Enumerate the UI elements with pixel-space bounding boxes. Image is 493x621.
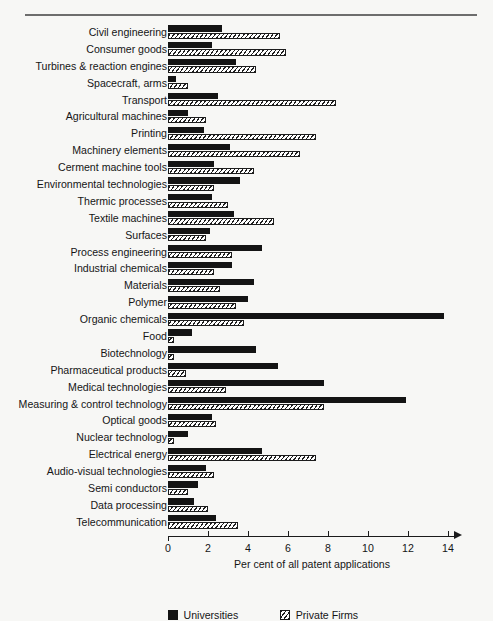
bar-private-firms <box>168 438 174 444</box>
category-label: Nuclear technology <box>0 429 167 446</box>
bar-private-firms <box>168 202 228 208</box>
chart-row: Thermic processes <box>0 193 493 210</box>
bar-private-firms <box>168 387 226 393</box>
chart-row: Agricultural machines <box>0 108 493 125</box>
category-label: Civil engineering <box>0 24 167 41</box>
legend-item-private-firms: Private Firms <box>280 609 358 621</box>
bar-private-firms <box>168 269 214 275</box>
x-axis-title: Per cent of all patent applications <box>168 558 456 570</box>
bar-universities <box>168 93 218 99</box>
category-label: Turbines & reaction engines <box>0 58 167 75</box>
bar-private-firms <box>168 320 244 326</box>
bar-universities <box>168 313 444 319</box>
bar-private-firms <box>168 489 188 495</box>
bar-private-firms <box>168 455 316 461</box>
chart-row: Transport <box>0 92 493 109</box>
bar-private-firms <box>168 235 206 241</box>
x-axis-arrow-icon <box>454 531 462 539</box>
bar-universities <box>168 296 248 302</box>
x-axis-tick-label: 8 <box>325 542 331 555</box>
bar-rows: Civil engineeringConsumer goodsTurbines … <box>0 24 493 531</box>
bar-private-firms <box>168 303 236 309</box>
chart-row: Spacecraft, arms <box>0 75 493 92</box>
chart-row: Environmental technologies <box>0 176 493 193</box>
bar-private-firms <box>168 252 232 258</box>
chart-row: Polymer <box>0 294 493 311</box>
x-axis-tick-label: 10 <box>362 542 374 555</box>
category-label: Printing <box>0 125 167 142</box>
bar-universities <box>168 76 176 82</box>
x-axis-tick <box>408 531 409 536</box>
category-label: Optical goods <box>0 412 167 429</box>
chart-row: Data processing <box>0 497 493 514</box>
bar-universities <box>168 397 406 403</box>
x-axis-tick <box>368 531 369 536</box>
chart-row: Optical goods <box>0 412 493 429</box>
category-label: Biotechnology <box>0 345 167 362</box>
bar-private-firms <box>168 117 206 123</box>
category-label: Organic chemicals <box>0 311 167 328</box>
chart-row: Textile machines <box>0 210 493 227</box>
header-divider <box>25 14 477 16</box>
bar-private-firms <box>168 506 208 512</box>
bar-universities <box>168 245 262 251</box>
bar-universities <box>168 329 192 335</box>
category-label: Machinery elements <box>0 142 167 159</box>
bar-universities <box>168 465 206 471</box>
bar-universities <box>168 279 254 285</box>
category-label: Pharmaceutical products <box>0 362 167 379</box>
bar-private-firms <box>168 337 174 343</box>
bar-universities <box>168 161 214 167</box>
legend-label-private-firms: Private Firms <box>296 609 358 621</box>
x-axis-line <box>168 536 456 537</box>
chart-row: Measuring & control technology <box>0 396 493 413</box>
category-label: Surfaces <box>0 227 167 244</box>
bar-universities <box>168 42 212 48</box>
bar-private-firms <box>168 404 324 410</box>
chart-row: Printing <box>0 125 493 142</box>
bar-universities <box>168 194 212 200</box>
chart-row: Nuclear technology <box>0 429 493 446</box>
chart-row: Materials <box>0 277 493 294</box>
category-label: Process engineering <box>0 244 167 261</box>
bar-universities <box>168 431 188 437</box>
chart-row: Biotechnology <box>0 345 493 362</box>
chart-row: Pharmaceutical products <box>0 362 493 379</box>
legend-item-universities: Universities <box>168 609 238 621</box>
chart-row: Audio-visual technologies <box>0 463 493 480</box>
category-label: Textile machines <box>0 210 167 227</box>
x-axis-tick-label: 0 <box>165 542 171 555</box>
bar-private-firms <box>168 151 300 157</box>
bar-private-firms <box>168 472 214 478</box>
bar-universities <box>168 448 262 454</box>
x-axis-tick-label: 6 <box>285 542 291 555</box>
bar-universities <box>168 177 240 183</box>
category-label: Measuring & control technology <box>0 396 167 413</box>
bar-universities <box>168 59 236 65</box>
bar-universities <box>168 228 210 234</box>
x-axis-tick <box>328 531 329 536</box>
x-axis-tick <box>168 536 169 541</box>
category-label: Food <box>0 328 167 345</box>
x-axis-tick <box>208 531 209 536</box>
chart-row: Food <box>0 328 493 345</box>
chart-row: Machinery elements <box>0 142 493 159</box>
hatched-square-icon <box>280 610 290 620</box>
chart-row: Telecommunication <box>0 514 493 531</box>
x-axis-tick <box>248 531 249 536</box>
chart-row: Medical technologies <box>0 379 493 396</box>
chart-row: Electrical energy <box>0 446 493 463</box>
legend-label-universities: Universities <box>184 609 239 621</box>
bar-universities <box>168 211 234 217</box>
x-axis-tick-label: 12 <box>402 542 414 555</box>
category-label: Cerment machine tools <box>0 159 167 176</box>
category-label: Industrial chemicals <box>0 260 167 277</box>
bar-private-firms <box>168 134 316 140</box>
x-axis-tick <box>288 531 289 536</box>
plot-area: Civil engineeringConsumer goodsTurbines … <box>0 24 493 532</box>
solid-black-square-icon <box>168 610 178 620</box>
category-label: Materials <box>0 277 167 294</box>
chart-row: Consumer goods <box>0 41 493 58</box>
bar-private-firms <box>168 100 336 106</box>
